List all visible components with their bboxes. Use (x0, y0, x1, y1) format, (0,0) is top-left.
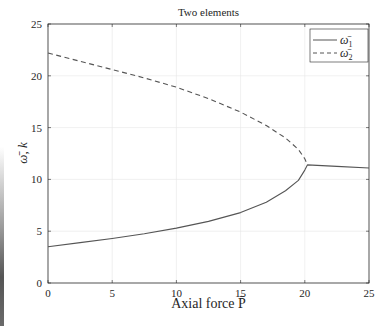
x-tick-label: 5 (109, 287, 115, 299)
y-axis-label: ω̄, k (15, 142, 30, 164)
series-line-2 (48, 53, 307, 165)
chart: 05101520250510152025 Two elements Axial … (0, 0, 386, 326)
data-series (48, 53, 369, 247)
x-tick-label: 20 (299, 287, 311, 299)
x-axis-label: Axial force P̄ (171, 296, 246, 311)
y-tick-label: 10 (31, 173, 43, 185)
y-tick-label: 5 (37, 225, 43, 237)
legend: ω̄1 ω̄2 (310, 29, 368, 62)
y-tick-label: 20 (31, 70, 43, 82)
legend-box (310, 29, 368, 62)
x-tick-label: 0 (45, 287, 51, 299)
series-line-1 (48, 165, 369, 247)
chart-title: Two elements (178, 6, 239, 18)
y-tick-label: 25 (31, 18, 43, 30)
y-tick-label: 0 (37, 277, 43, 289)
x-tick-label: 25 (364, 287, 376, 299)
y-tick-label: 15 (31, 122, 43, 134)
axes-box (48, 24, 369, 283)
grid-lines (48, 24, 369, 283)
